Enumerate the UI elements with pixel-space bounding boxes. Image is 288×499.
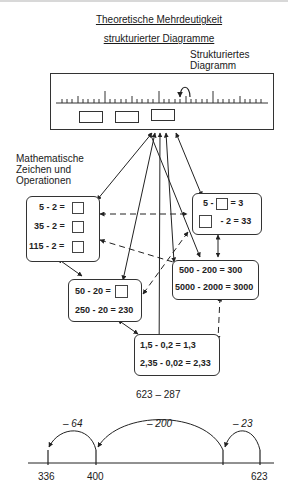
blank-box xyxy=(115,285,128,298)
number-line-label-400: 400 xyxy=(87,471,104,482)
subtraction-problem: 623 – 287 xyxy=(136,389,181,401)
eq-mid-right-2: 5000 - 2000 = 3000 xyxy=(175,282,253,293)
eq-left-1: 5 - 2 = xyxy=(39,202,65,212)
box-middle-left-equations: 50 - 20 = 250 - 20 = 230 xyxy=(68,279,142,322)
eq-mid-right-1: 500 - 200 = 300 xyxy=(179,265,242,276)
box-right-equations: 5 - = 3 - 2 = 33 xyxy=(192,193,262,235)
eq-mid-left-1: 50 - 20 = xyxy=(75,286,111,296)
number-line-label-336: 336 xyxy=(38,471,55,482)
jump-label-minus-64: – 64 xyxy=(63,418,82,429)
jump-label-minus-23: – 23 xyxy=(233,418,252,429)
eq-bottom-2: 2,35 - 0,02 = 2,33 xyxy=(140,358,211,369)
eq-left-3: 115 - 2 = xyxy=(29,241,64,251)
eq-right-1b: = 3 xyxy=(231,198,244,208)
box-left-equations: 5 - 2 = 35 - 2 = 115 - 2 = xyxy=(26,196,100,262)
eq-bottom-1: 1,5 - 0,2 = 1,3 xyxy=(140,340,196,351)
jump-label-minus-200: – 200 xyxy=(147,418,172,429)
blank-box xyxy=(199,215,212,228)
blank-box xyxy=(72,221,84,233)
number-line-label-623: 623 xyxy=(251,471,268,482)
eq-mid-left-2: 250 - 20 = 230 xyxy=(75,305,133,316)
box-middle-right-equations: 500 - 200 = 300 5000 - 2000 = 3000 xyxy=(172,260,259,300)
eq-right-1a: 5 - xyxy=(203,198,214,208)
eq-right-2b: - 2 = 33 xyxy=(221,216,252,226)
blank-box xyxy=(72,202,84,214)
eq-left-2: 35 - 2 = xyxy=(34,221,65,231)
blank-box xyxy=(216,198,228,210)
box-bottom-equations: 1,5 - 0,2 = 1,3 2,35 - 0,02 = 2,33 xyxy=(134,334,220,376)
ruler-ticks xyxy=(62,91,261,103)
blank-box xyxy=(72,241,84,253)
